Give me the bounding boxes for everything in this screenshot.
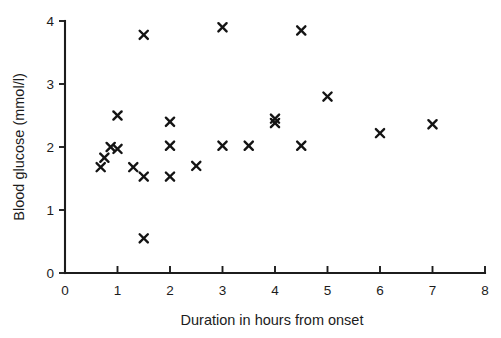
x-tick-label: 4	[271, 283, 279, 298]
axes	[65, 21, 485, 273]
y-axis-ticks: 01234	[46, 14, 65, 281]
x-tick-label: 0	[61, 283, 69, 298]
data-point-marker	[100, 154, 108, 162]
y-tick-label: 3	[46, 77, 54, 92]
data-point-marker	[323, 93, 331, 101]
data-point-marker	[218, 23, 226, 31]
plot-canvas: 01234 012345678 Duration in hours from o…	[0, 0, 501, 338]
data-point-marker	[113, 145, 121, 153]
data-point-marker	[97, 163, 105, 171]
data-point-marker	[218, 142, 226, 150]
data-point-marker	[113, 111, 121, 119]
data-point-marker	[297, 142, 305, 150]
data-point-marker	[428, 120, 436, 128]
data-point-marker	[166, 173, 174, 181]
x-tick-label: 8	[481, 283, 489, 298]
data-point-marker	[376, 129, 384, 137]
x-tick-label: 6	[376, 283, 384, 298]
x-tick-label: 1	[114, 283, 122, 298]
x-tick-label: 7	[429, 283, 437, 298]
data-point-marker	[192, 162, 200, 170]
y-tick-label: 0	[46, 266, 54, 281]
y-tick-label: 2	[46, 140, 54, 155]
data-point-marker	[297, 26, 305, 34]
x-axis-ticks: 012345678	[61, 266, 489, 298]
scatter-plot-figure: 01234 012345678 Duration in hours from o…	[0, 0, 501, 338]
data-point-marker	[140, 173, 148, 181]
x-tick-label: 3	[219, 283, 227, 298]
data-point-marker	[245, 142, 253, 150]
y-axis-title: Blood glucose (mmol/l)	[11, 73, 27, 220]
y-tick-label: 1	[46, 203, 54, 218]
y-tick-label: 4	[46, 14, 54, 29]
data-point-marker	[129, 163, 137, 171]
data-point-marker	[140, 31, 148, 39]
x-tick-label: 2	[166, 283, 174, 298]
data-point-marker	[140, 234, 148, 242]
data-points-layer	[97, 23, 437, 242]
data-point-marker	[166, 142, 174, 150]
x-tick-label: 5	[324, 283, 332, 298]
data-point-marker	[166, 118, 174, 126]
x-axis-title: Duration in hours from onset	[181, 312, 364, 328]
